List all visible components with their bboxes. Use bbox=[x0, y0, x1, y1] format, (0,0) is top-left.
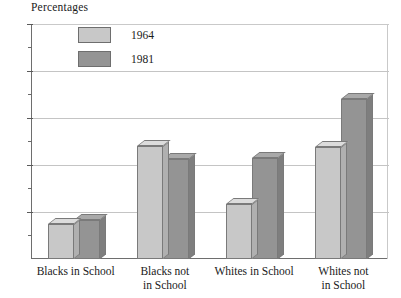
x-category-label-line: Whites not bbox=[299, 265, 388, 279]
x-category-label: Whites notin School bbox=[299, 265, 388, 292]
bar-0 bbox=[48, 224, 74, 259]
x-category-label: Blacks notin School bbox=[120, 265, 209, 292]
y-tick-minor bbox=[28, 188, 32, 189]
bar-side-face bbox=[100, 216, 106, 259]
bar-side-face bbox=[341, 143, 347, 259]
bar-side-face bbox=[278, 153, 284, 259]
legend-swatch-1964 bbox=[78, 27, 111, 43]
bar-front-face bbox=[137, 146, 163, 259]
bar-0 bbox=[315, 147, 341, 259]
x-category-label: Blacks in School bbox=[31, 265, 120, 279]
plot-frame-top bbox=[32, 24, 389, 25]
y-tick-major bbox=[27, 118, 33, 119]
bar-0 bbox=[137, 146, 163, 259]
plot-frame-right bbox=[387, 24, 388, 259]
y-tick-major bbox=[27, 24, 33, 25]
bar-0 bbox=[226, 204, 252, 259]
bar-front-face bbox=[315, 147, 341, 259]
bar-side-face bbox=[74, 219, 80, 259]
bar-front-face bbox=[226, 204, 252, 259]
bar-side-face bbox=[189, 154, 195, 259]
y-tick-minor bbox=[28, 235, 32, 236]
chart-axis-title: Percentages bbox=[31, 1, 88, 13]
x-category-label-line: in School bbox=[299, 279, 388, 293]
bar-side-face bbox=[252, 199, 258, 259]
y-tick-minor bbox=[28, 47, 32, 48]
y-tick-major bbox=[27, 165, 33, 166]
legend-label-1981: 1981 bbox=[131, 51, 154, 67]
bar-chart: Percentages 20406080100 Blacks in School… bbox=[0, 0, 401, 298]
x-category-label-line: Blacks not bbox=[120, 265, 209, 279]
legend-swatch-1981 bbox=[78, 51, 111, 67]
bar-front-face bbox=[48, 224, 74, 259]
y-tick-minor bbox=[28, 94, 32, 95]
gridline bbox=[32, 71, 389, 72]
y-tick-minor bbox=[28, 141, 32, 142]
bar-side-face bbox=[163, 141, 169, 258]
bar-side-face bbox=[367, 94, 373, 258]
legend-label-1964: 1964 bbox=[131, 27, 154, 43]
y-tick-major bbox=[27, 212, 33, 213]
x-category-label-line: Whites in School bbox=[210, 265, 299, 279]
gridline bbox=[32, 118, 389, 119]
x-category-label: Whites in School bbox=[210, 265, 299, 279]
y-tick-major bbox=[27, 71, 33, 72]
x-category-label-line: in School bbox=[120, 279, 209, 293]
x-category-label-line: Blacks in School bbox=[31, 265, 120, 279]
